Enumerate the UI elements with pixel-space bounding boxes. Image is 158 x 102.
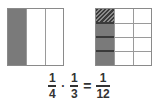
thirds-area-model [7, 8, 64, 66]
hatched-cell [96, 9, 114, 23]
multiply-operator: · [59, 79, 67, 93]
fraction-one-fourth: 1 4 [48, 72, 56, 100]
row-divider-dark [96, 50, 114, 52]
row-divider-dark [96, 36, 114, 38]
denominator: 12 [96, 88, 109, 100]
column-divider [45, 9, 46, 65]
multiplication-equation: 1 4 · 1 3 = 1 12 [0, 71, 158, 101]
shaded-third [8, 9, 26, 65]
equals-sign: = [81, 79, 93, 93]
denominator: 4 [49, 88, 56, 100]
numerator: 1 [49, 72, 56, 84]
row-divider-dark [96, 22, 114, 24]
twelfths-area-model [95, 8, 152, 66]
column-divider [26, 9, 27, 65]
fraction-one-third: 1 3 [70, 72, 78, 100]
numerator: 1 [71, 72, 78, 84]
fraction-one-twelfth: 1 12 [96, 72, 109, 100]
denominator: 3 [71, 88, 78, 100]
numerator: 1 [100, 72, 107, 84]
